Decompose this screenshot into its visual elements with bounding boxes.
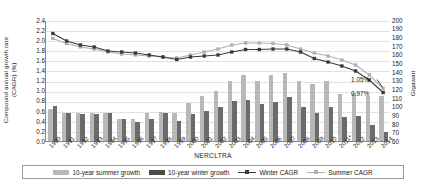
line-marker <box>313 57 316 60</box>
line-marker <box>299 50 302 53</box>
y-tick-label-right: 80 <box>392 122 408 128</box>
legend-label-summer-growth: 10-year summer growth <box>72 169 139 176</box>
line-marker <box>244 41 247 44</box>
line-marker <box>120 50 123 53</box>
line-marker <box>65 39 68 42</box>
y-tick-label-right: 100 <box>392 104 408 110</box>
line-marker <box>175 58 178 61</box>
line-marker <box>161 55 164 58</box>
line-marker <box>79 43 82 46</box>
line-winter-cagr <box>53 34 383 93</box>
y-tick-label-right: 60 <box>392 139 408 145</box>
y-tick-label-right: 90 <box>392 113 408 119</box>
line-marker <box>189 55 192 58</box>
line-marker <box>326 60 329 63</box>
y-tick-label-left: 0.0 <box>21 139 45 145</box>
y-tick-label-right: 120 <box>392 87 408 93</box>
y-tick-label-left: 0.2 <box>21 129 45 135</box>
line-marker <box>340 58 343 61</box>
line-marker <box>326 54 329 57</box>
y-tick-label-left: 0.6 <box>21 109 45 115</box>
line-marker <box>51 32 54 35</box>
annotation-summer-cagr-value: 1.05% <box>351 76 369 83</box>
y-tick-label-right: 160 <box>392 52 408 58</box>
line-marker <box>285 47 288 50</box>
legend-item-winter-cagr: Winter CAGR <box>238 169 298 176</box>
legend-swatch-winter-line <box>238 169 256 175</box>
y-tick-label-left: 1.4 <box>21 68 45 74</box>
line-marker <box>216 47 219 50</box>
line-marker <box>216 53 219 56</box>
line-marker <box>148 53 151 56</box>
line-marker <box>271 47 274 50</box>
line-marker <box>230 50 233 53</box>
line-marker <box>203 54 206 57</box>
y-tick-label-left: 2.2 <box>21 28 45 34</box>
line-marker <box>381 91 384 94</box>
y-tick-label-left: 0.4 <box>21 119 45 125</box>
plot-area <box>45 21 390 142</box>
y-axis-title-left: Compound annual growth rate (CAGR) (%) <box>2 18 17 142</box>
line-marker <box>340 64 343 67</box>
chart-container: Compound annual growth rate (CAGR) (%) G… <box>0 0 426 185</box>
line-marker <box>313 51 316 54</box>
line-marker <box>258 41 261 44</box>
line-marker <box>92 45 95 48</box>
line-marker <box>51 37 54 40</box>
y-tick-label-right: 180 <box>392 35 408 41</box>
y-tick-label-left: 1.8 <box>21 48 45 54</box>
legend-swatch-winter-bar <box>149 170 165 175</box>
y-tick-label-left: 0.8 <box>21 98 45 104</box>
x-axis-title: NERCLTRA <box>0 152 426 159</box>
line-marker <box>258 48 261 51</box>
line-marker <box>106 49 109 52</box>
legend-item-winter-growth: 10-year winter growth <box>149 169 229 176</box>
y-tick-label-left: 2.4 <box>21 18 45 24</box>
line-marker <box>244 48 247 51</box>
y-tick-label-right: 70 <box>392 130 408 136</box>
y-tick-label-right: 110 <box>392 96 408 102</box>
y-tick-label-right: 190 <box>392 26 408 32</box>
y-tick-label-right: 140 <box>392 70 408 76</box>
legend-item-summer-growth: 10-year summer growth <box>53 169 139 176</box>
legend-item-summer-cagr: Summer CAGR <box>307 169 372 176</box>
y-tick-label-left: 2.0 <box>21 38 45 44</box>
line-marker <box>285 43 288 46</box>
legend-label-winter-cagr: Winter CAGR <box>259 169 298 176</box>
y-tick-label-left: 1.2 <box>21 78 45 84</box>
line-marker <box>203 50 206 53</box>
y-tick-label-right: 200 <box>392 18 408 24</box>
y-axis-title-right: Gigawatt <box>409 48 417 118</box>
y-tick-label-right: 170 <box>392 44 408 50</box>
legend-swatch-summer-bar <box>53 170 69 175</box>
line-marker <box>299 47 302 50</box>
annotation-winter-cagr-value: 0.97% <box>351 90 369 97</box>
y-tick-label-right: 150 <box>392 61 408 67</box>
line-marker <box>271 42 274 45</box>
chart-legend: 10-year summer growth 10-year winter gro… <box>22 165 404 179</box>
line-marker <box>230 43 233 46</box>
y-tick-label-left: 1.6 <box>21 58 45 64</box>
y-tick-label-right: 130 <box>392 78 408 84</box>
legend-swatch-summer-line <box>307 169 325 175</box>
line-marker <box>354 63 357 66</box>
y-tick-label-left: 1.0 <box>21 88 45 94</box>
legend-label-summer-cagr: Summer CAGR <box>328 169 372 176</box>
line-marker <box>134 51 137 54</box>
line-marker <box>354 69 357 72</box>
line-marker <box>381 87 384 90</box>
legend-label-winter-growth: 10-year winter growth <box>168 169 229 176</box>
line-series-group <box>46 21 390 141</box>
